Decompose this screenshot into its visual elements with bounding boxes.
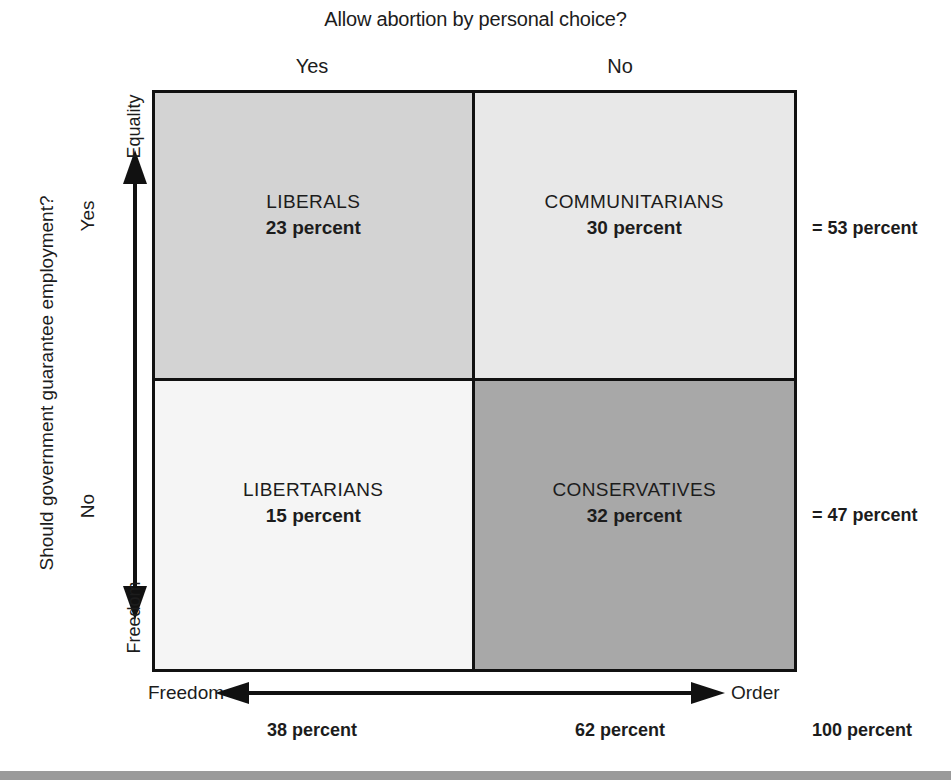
quadrant-conservatives-value: 32 percent — [587, 505, 682, 527]
column-header-yes: Yes — [252, 55, 372, 78]
quadrant-matrix: LIBERALS 23 percent COMMUNITARIANS 30 pe… — [152, 90, 797, 672]
quadrant-libertarians-value: 15 percent — [266, 505, 361, 527]
y-axis-category-no: No — [77, 461, 99, 551]
column-header-no: No — [560, 55, 680, 78]
ideology-matrix-figure: Allow abortion by personal choice? Yes N… — [0, 0, 951, 780]
x-axis-pole-freedom: Freedom — [148, 682, 224, 704]
y-axis-question: Should government guarantee employment? — [36, 93, 58, 673]
vertical-axis-arrow-icon — [120, 150, 150, 620]
y-axis-pole-freedom: Freedom — [124, 563, 145, 673]
quadrant-communitarians-value: 30 percent — [587, 217, 682, 239]
quadrant-libertarians: LIBERTARIANS 15 percent — [155, 381, 475, 669]
column-total-left: 38 percent — [232, 720, 392, 741]
y-axis-category-yes: Yes — [77, 171, 99, 261]
row-total-bottom: = 47 percent — [812, 505, 918, 526]
quadrant-liberals: LIBERALS 23 percent — [155, 93, 475, 381]
quadrant-libertarians-label: LIBERTARIANS — [243, 479, 383, 501]
quadrant-conservatives-label: CONSERVATIVES — [552, 479, 716, 501]
quadrant-communitarians: COMMUNITARIANS 30 percent — [475, 93, 795, 381]
figure-title: Allow abortion by personal choice? — [0, 8, 951, 31]
y-axis-pole-equality: Equality — [124, 72, 145, 182]
quadrant-conservatives: CONSERVATIVES 32 percent — [475, 381, 795, 669]
row-total-top: = 53 percent — [812, 218, 918, 239]
column-total-all: 100 percent — [782, 720, 942, 741]
bottom-decorative-band — [0, 771, 951, 780]
quadrant-liberals-label: LIBERALS — [266, 191, 360, 213]
horizontal-axis-arrow-icon — [215, 680, 725, 706]
quadrant-communitarians-label: COMMUNITARIANS — [545, 191, 724, 213]
x-axis-pole-order: Order — [731, 682, 780, 704]
column-total-right: 62 percent — [540, 720, 700, 741]
quadrant-liberals-value: 23 percent — [266, 217, 361, 239]
